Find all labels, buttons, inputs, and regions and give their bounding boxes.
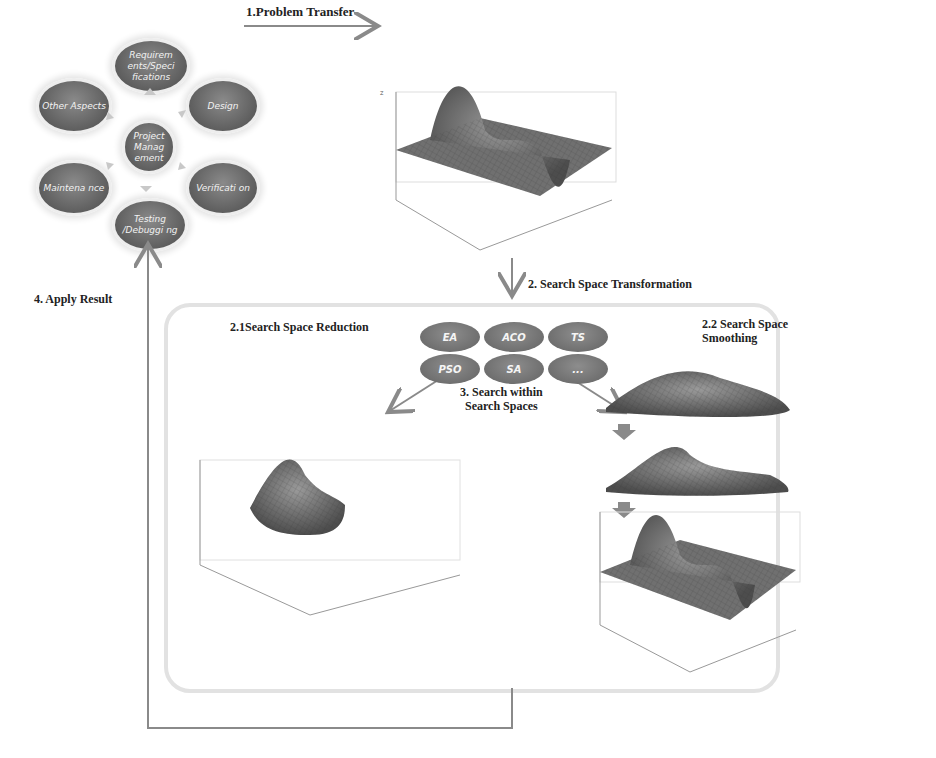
- plot-smoothing-2: [606, 447, 788, 496]
- plot-smoothed-final: [600, 512, 800, 672]
- surface-plots: [0, 0, 936, 758]
- plot-original: [396, 86, 616, 250]
- plot-smoothing-1: [606, 371, 790, 417]
- z-axis-label: Z: [380, 90, 383, 96]
- plot-reduced: [200, 459, 460, 615]
